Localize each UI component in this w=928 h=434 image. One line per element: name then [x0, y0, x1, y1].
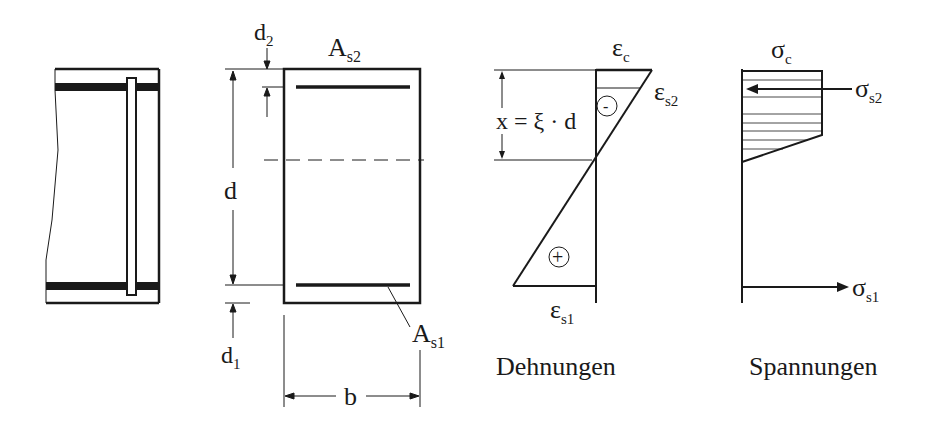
eps-c-label: εc: [612, 33, 630, 65]
sigma-s1-label: σs1: [852, 273, 879, 305]
top-rebar-elevation: [55, 83, 159, 91]
As2-label: As2: [328, 33, 361, 65]
plus-sign: +: [552, 246, 563, 268]
stirrup: [127, 78, 136, 295]
d1-label: d1: [221, 342, 241, 372]
strain-diagram: [494, 69, 652, 303]
bottom-rebar-elevation: [46, 282, 159, 290]
dimension-lines: [225, 48, 420, 407]
x-equation-label: x = ξ · d: [496, 108, 576, 134]
minus-sign: -: [603, 98, 608, 115]
eps-s2-label: εs2: [654, 77, 678, 109]
stress-diagram: [742, 69, 852, 303]
d2-label: d2: [254, 19, 274, 49]
d-label: d: [224, 176, 237, 205]
sigma-c-label: σc: [771, 35, 792, 67]
reinforced-concrete-section-diagram: d2 As2 d d1 As1 b - + x = ξ · d εc εs2 ε…: [0, 0, 928, 434]
strain-title: Dehnungen: [496, 352, 616, 381]
As1-label: As1: [412, 319, 445, 351]
b-label: b: [344, 382, 357, 411]
sigma-s2-label: σs2: [855, 74, 882, 106]
stress-title: Spannungen: [749, 352, 878, 381]
beam-elevation: [46, 69, 159, 303]
eps-s1-label: εs1: [550, 295, 574, 327]
cross-section: [264, 69, 424, 327]
